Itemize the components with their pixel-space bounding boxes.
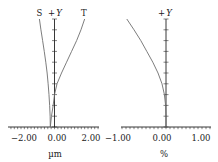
left-tick-label-0: 0.00 (48, 133, 67, 143)
right-tick-label-1: 1.00 (192, 133, 211, 143)
label-plus-y-right: +Y (158, 8, 173, 18)
right-tick-label-0: 0.00 (153, 133, 172, 143)
right-tick-label-neg1: −1.00 (105, 133, 131, 143)
right-unit-label: % (160, 149, 168, 159)
label-s: S (37, 8, 43, 18)
left-tick-label-neg2: −2.00 (11, 133, 37, 143)
distortion-curve (127, 19, 166, 127)
left-tick-label-2: 2.00 (82, 133, 101, 143)
label-plus-y-left: +Y (48, 8, 63, 18)
aberration-plots: S +Y T −2.00 0.00 2.00 µm +Y −1.00 0.00 … (0, 0, 218, 162)
sagittal-curve (39, 19, 50, 127)
label-t: T (81, 8, 87, 18)
distortion-plot: +Y −1.00 0.00 1.00 % (105, 8, 211, 159)
field-curves-plot: S +Y T −2.00 0.00 2.00 µm (8, 8, 100, 159)
left-unit-label: µm (48, 149, 62, 159)
chart-canvas: S +Y T −2.00 0.00 2.00 µm +Y −1.00 0.00 … (0, 0, 218, 162)
